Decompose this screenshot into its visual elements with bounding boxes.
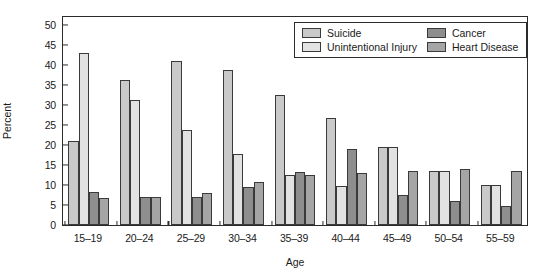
y-axis-tick-label: 35 — [45, 79, 56, 91]
bar — [120, 80, 130, 225]
bar — [79, 53, 89, 225]
y-axis-tick-label: 50 — [45, 19, 56, 31]
legend-label: Heart Disease — [452, 42, 519, 53]
x-axis-label: Age — [286, 256, 305, 268]
legend-label: Unintentional Injury — [327, 42, 417, 53]
y-axis-tick-label: 15 — [45, 159, 56, 171]
y-axis-tick-label: 5 — [50, 199, 56, 211]
x-axis-tick-mark — [323, 221, 324, 225]
y-axis-tick-mark — [63, 184, 68, 185]
bar — [501, 206, 511, 225]
y-axis-tick-mark — [63, 204, 68, 205]
x-axis-tick-mark — [65, 221, 66, 225]
bar — [254, 182, 264, 225]
bar — [347, 149, 357, 225]
bar — [388, 147, 398, 225]
y-axis-tick-label: 0 — [50, 219, 56, 231]
y-axis-tick-mark — [63, 84, 68, 85]
x-axis-tick-mark — [219, 221, 220, 225]
x-axis-tick-mark — [271, 221, 272, 225]
bar — [511, 171, 521, 225]
bar — [192, 197, 202, 225]
bar — [243, 187, 253, 225]
x-axis-tick-mark — [426, 221, 427, 225]
bar — [223, 70, 233, 225]
bar — [408, 171, 418, 225]
x-axis-tick-mark — [374, 221, 375, 225]
bar — [398, 195, 408, 225]
bar — [378, 147, 388, 225]
bar — [429, 171, 439, 225]
bar — [491, 185, 501, 225]
legend-label: Cancer — [452, 28, 486, 39]
y-axis-tick-mark — [63, 104, 68, 105]
bar — [450, 201, 460, 225]
y-axis-tick-mark — [63, 144, 68, 145]
bar-chart: Percent Age 05101520253035404550 Suicide… — [0, 0, 548, 279]
bar — [171, 61, 181, 225]
y-axis-tick-label: 10 — [45, 179, 56, 191]
y-axis-tick-label: 20 — [45, 139, 56, 151]
legend-item: Heart Disease — [427, 42, 519, 53]
bar — [140, 197, 150, 225]
bar — [151, 197, 161, 225]
x-axis-tick-label: 35–39 — [280, 232, 308, 244]
legend-swatch-icon — [427, 42, 446, 52]
y-axis-tick-label: 45 — [45, 39, 56, 51]
y-axis-tick-label: 25 — [45, 119, 56, 131]
x-axis-tick-mark — [116, 221, 117, 225]
x-axis-tick-label: 40–44 — [331, 232, 359, 244]
legend-item: Suicide — [302, 28, 417, 39]
bar — [439, 171, 449, 225]
bar — [99, 198, 109, 225]
legend-item: Cancer — [427, 28, 519, 39]
y-axis-tick-mark — [63, 64, 68, 65]
x-axis-tick-label: 50–54 — [435, 232, 463, 244]
bar — [202, 193, 212, 225]
bar — [89, 192, 99, 225]
bar — [275, 95, 285, 225]
bar — [130, 100, 140, 225]
x-axis-tick-label: 55–59 — [486, 232, 514, 244]
bar — [357, 173, 367, 225]
x-axis-tick-label: 15–19 — [74, 232, 102, 244]
legend-label: Suicide — [327, 28, 361, 39]
legend-swatch-icon — [427, 28, 446, 38]
y-axis-tick-mark — [63, 124, 68, 125]
bar — [295, 172, 305, 225]
x-axis-tick-mark — [168, 221, 169, 225]
y-axis-tick-mark — [63, 164, 68, 165]
bar — [326, 118, 336, 225]
y-axis-tick-mark — [63, 24, 68, 25]
bar — [233, 154, 243, 225]
chart-legend: SuicideCancerUnintentional InjuryHeart D… — [294, 22, 527, 58]
legend-swatch-icon — [302, 42, 321, 52]
x-axis-tick-label: 20–24 — [125, 232, 153, 244]
x-axis-tick-label: 25–29 — [177, 232, 205, 244]
bar — [481, 185, 491, 225]
y-axis-tick-label: 30 — [45, 99, 56, 111]
bar — [305, 175, 315, 225]
y-axis-tick-label: 40 — [45, 59, 56, 71]
legend-item: Unintentional Injury — [302, 42, 417, 53]
bar — [460, 169, 470, 225]
x-axis-tick-mark — [477, 221, 478, 225]
bar — [336, 186, 346, 225]
x-axis-tick-label: 30–34 — [228, 232, 256, 244]
bar — [182, 130, 192, 225]
bar — [285, 175, 295, 225]
bar — [68, 141, 78, 225]
x-axis-tick-label: 45–49 — [383, 232, 411, 244]
y-axis-tick-mark — [63, 44, 68, 45]
y-axis-label: Percent — [1, 103, 13, 139]
legend-swatch-icon — [302, 28, 321, 38]
